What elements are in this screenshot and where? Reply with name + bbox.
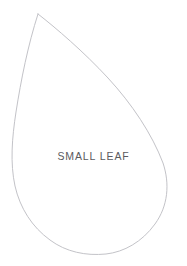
leaf-outline-path [12,14,167,254]
leaf-label: SMALL LEAF [0,150,187,163]
leaf-shape-svg [0,0,187,266]
leaf-template-canvas: SMALL LEAF [0,0,187,266]
